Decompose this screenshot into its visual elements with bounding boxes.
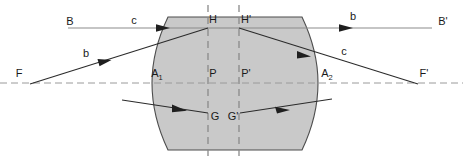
label-P-prime: P' [241,67,250,79]
label-H-prime: H' [241,13,251,25]
ray-b-outgoing-arrowhead [339,24,353,32]
label-H: H [209,13,217,25]
ray-c-incoming-arrowhead [98,59,112,66]
label-G: G [211,110,220,122]
label-B-prime: B' [438,15,447,27]
label-ray-c-left: c [131,14,137,26]
label-G-prime: G' [228,110,239,122]
label-ray-c-right: c [341,45,347,57]
optics-diagram: B B' F F' H H' A1 A2 P P' G G' c b b c [0,0,463,166]
label-ray-b-left: b [83,47,89,59]
label-A2: A2 [321,67,333,82]
label-A2-subscript: 2 [329,73,333,82]
label-P: P [209,67,216,79]
label-F-prime: F' [420,67,429,79]
label-ray-b-right: b [350,10,356,22]
optics-diagram-canvas: B B' F F' H H' A1 A2 P P' G G' c b b c [0,0,463,166]
label-F: F [16,67,23,79]
label-A1-subscript: 1 [159,73,163,82]
label-B: B [66,15,73,27]
